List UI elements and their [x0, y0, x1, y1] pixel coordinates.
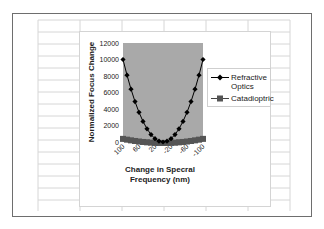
legend[interactable]: Refractive Optics Catadioptric	[207, 68, 271, 107]
y-tick-label: 10000	[100, 56, 120, 63]
y-axis-ticks: 020004000600080001000012000	[100, 40, 120, 146]
y-tick-label: 2000	[103, 122, 119, 129]
legend-item-refractive-optics[interactable]: Refractive Optics	[210, 73, 267, 91]
diamond-marker-icon	[210, 73, 230, 82]
y-axis-label: Normalized Focus Change	[87, 41, 96, 142]
legend-label: Refractive	[231, 73, 267, 82]
y-tick-label: 8000	[103, 73, 119, 80]
y-tick-label: 12000	[100, 40, 120, 47]
legend-label: Optics	[231, 82, 267, 91]
x-axis-label-line2: Frequency (nm)	[110, 175, 210, 185]
square-marker-icon	[210, 94, 230, 103]
x-axis-label-line1: Change in Specral	[110, 165, 210, 175]
x-axis-label: Change in Specral Frequency (nm)	[110, 165, 210, 185]
y-tick-label: 4000	[103, 106, 119, 113]
x-tick-label: -100	[191, 143, 206, 158]
plot: 020004000600080001000012000 1006020-20-6…	[0, 0, 324, 229]
legend-label: Catadioptric	[231, 94, 274, 103]
plot-area	[123, 43, 203, 142]
legend-item-catadioptric[interactable]: Catadioptric	[210, 94, 274, 103]
y-tick-label: 6000	[103, 89, 119, 96]
